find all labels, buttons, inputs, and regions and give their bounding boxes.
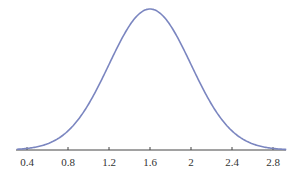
normal-curve-chart: 0.40.81.21.622.42.8 (0, 0, 296, 178)
density-curve (17, 9, 287, 149)
x-tick-label: 1.6 (143, 156, 157, 168)
x-tick-label: 0.4 (20, 156, 34, 168)
x-tick-label: 2.4 (225, 156, 239, 168)
x-tick-label: 0.8 (61, 156, 75, 168)
x-tick-label: 1.2 (102, 156, 116, 168)
x-tick-label: 2.8 (266, 156, 280, 168)
x-tick-label: 2 (188, 156, 194, 168)
